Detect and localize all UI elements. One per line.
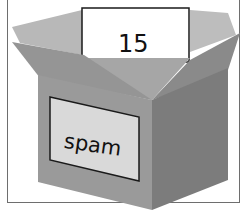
value-card-text: 15 [118,30,149,58]
variable-box-diagram: 15 spam [0,0,246,217]
